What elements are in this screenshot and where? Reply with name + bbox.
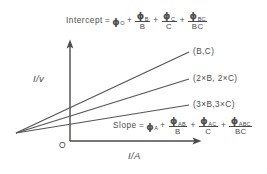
x-axis-label: I/A: [128, 150, 141, 161]
slope-fraction-3-denominator: BC: [233, 127, 248, 136]
y-axis: [67, 40, 74, 142]
intercept-term-1-subscript: B: [145, 16, 149, 22]
slope-term-2-subscript: AC: [208, 121, 216, 127]
intercept-plus-1: +: [127, 17, 132, 25]
slope-term-0-subscript: A: [154, 126, 158, 132]
origin-label: O: [59, 140, 66, 150]
intercept-fraction-2: ϕC C: [162, 11, 177, 32]
curve-label-3b-3c: (3×B,3×C): [193, 100, 235, 109]
slope-fraction-1-numerator: ϕAB: [169, 116, 188, 127]
intercept-term-2-subscript: C: [171, 16, 175, 22]
y-axis-label-denominator: v: [39, 73, 44, 84]
slope-fraction-3-numerator: ϕABC: [229, 116, 252, 127]
intercept-term-1: ϕ: [137, 10, 145, 21]
slope-formula-lhs: Slope: [113, 122, 137, 130]
intercept-fraction-2-denominator: C: [165, 22, 174, 31]
intercept-fraction-1-numerator: ϕB: [135, 11, 150, 22]
slope-fraction-2-numerator: ϕAC: [199, 116, 218, 127]
intercept-formula: Intercept = ϕO + ϕB B + ϕC C + ϕBC BC: [66, 11, 208, 32]
intercept-term-3-subscript: BC: [198, 16, 206, 22]
slope-plus-2: +: [190, 122, 195, 130]
intercept-fraction-1-denominator: B: [138, 22, 147, 31]
intercept-term-0: ϕ: [112, 17, 120, 26]
curve-label-b-c: (B,C): [193, 47, 214, 56]
x-axis-label-denominator: A: [134, 150, 141, 161]
intercept-plus-3: +: [180, 17, 185, 25]
intercept-fraction-1: ϕB B: [135, 11, 150, 32]
slope-fraction-2-denominator: C: [204, 127, 213, 136]
intercept-term-2: ϕ: [163, 10, 171, 21]
slope-term-2: ϕ: [200, 115, 208, 126]
slope-term-0: ϕ: [146, 122, 154, 131]
intercept-fraction-3: ϕBC BC: [188, 11, 207, 32]
intercept-formula-lhs: Intercept: [66, 17, 103, 25]
slope-formula-equals: =: [139, 122, 144, 130]
slope-fraction-1-denominator: B: [174, 127, 183, 136]
figure-canvas: Intercept = ϕO + ϕB B + ϕC C + ϕBC BC Sl…: [0, 0, 267, 174]
intercept-fraction-3-denominator: BC: [190, 22, 205, 31]
slope-term-3: ϕ: [231, 115, 239, 126]
intercept-term-3: ϕ: [190, 10, 198, 21]
y-axis-label: I/v: [33, 73, 44, 84]
intercept-fraction-2-numerator: ϕC: [162, 11, 177, 22]
curve-label-2b-2c: (2×B, 2×C): [193, 74, 238, 83]
slope-fraction-1: ϕAB B: [169, 116, 188, 137]
slope-term-3-subscript: ABC: [239, 121, 251, 127]
slope-term-1-subscript: AB: [178, 121, 186, 127]
slope-formula: Slope = ϕA + ϕAB B + ϕAC C + ϕABC BC: [113, 116, 253, 137]
slope-plus-3: +: [221, 122, 226, 130]
intercept-plus-2: +: [153, 17, 158, 25]
intercept-fraction-3-numerator: ϕBC: [188, 11, 207, 22]
slope-term-1: ϕ: [170, 115, 178, 126]
x-axis: [70, 138, 202, 145]
slope-fraction-2: ϕAC C: [199, 116, 218, 137]
intercept-formula-equals: =: [105, 17, 110, 25]
slope-plus-1: +: [160, 122, 165, 130]
intercept-term-0-subscript: O: [120, 21, 125, 27]
slope-fraction-3: ϕABC BC: [229, 116, 252, 137]
